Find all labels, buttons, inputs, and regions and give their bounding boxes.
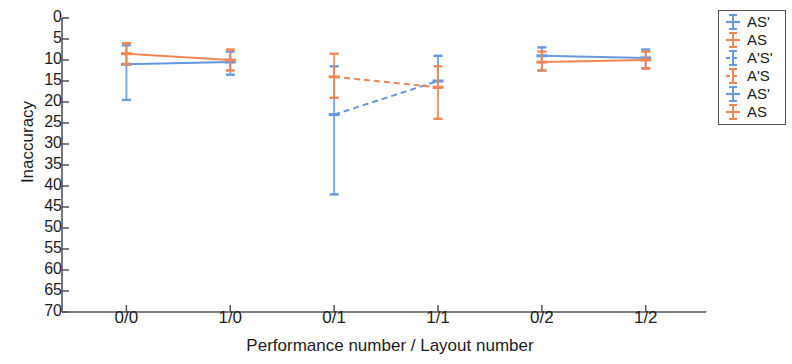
legend: AS'ASA'S'A'SAS'AS xyxy=(718,10,786,125)
legend-label: AS' xyxy=(744,85,770,103)
x-tick-label: 0/2 xyxy=(512,308,572,328)
x-tick-label: 1/0 xyxy=(200,308,260,328)
legend-label: AS xyxy=(744,103,767,121)
x-tick-label: 0/1 xyxy=(304,308,364,328)
legend-item[interactable]: AS' xyxy=(722,13,782,31)
legend-marker-icon xyxy=(722,85,744,103)
legend-item[interactable]: AS xyxy=(722,103,782,121)
legend-label: A'S' xyxy=(744,49,773,67)
legend-marker-icon xyxy=(722,49,744,67)
x-tick-label: 1/1 xyxy=(408,308,468,328)
legend-marker-icon xyxy=(722,67,744,85)
legend-marker-icon xyxy=(722,13,744,31)
legend-marker-icon xyxy=(722,31,744,49)
legend-label: A'S xyxy=(744,67,770,85)
x-tick-label: 1/2 xyxy=(616,308,676,328)
legend-item[interactable]: AS' xyxy=(722,85,782,103)
legend-label: AS' xyxy=(744,13,770,31)
legend-item[interactable]: A'S' xyxy=(722,49,782,67)
legend-marker-icon xyxy=(722,103,744,121)
legend-item[interactable]: A'S xyxy=(722,67,782,85)
legend-label: AS xyxy=(744,31,767,49)
x-axis-title: Performance number / Layout number xyxy=(60,336,720,356)
inaccuracy-chart: Inaccuracy 0510152025303540455055606570 … xyxy=(0,0,792,364)
legend-item[interactable]: AS xyxy=(722,31,782,49)
x-tick-label: 0/0 xyxy=(96,308,156,328)
